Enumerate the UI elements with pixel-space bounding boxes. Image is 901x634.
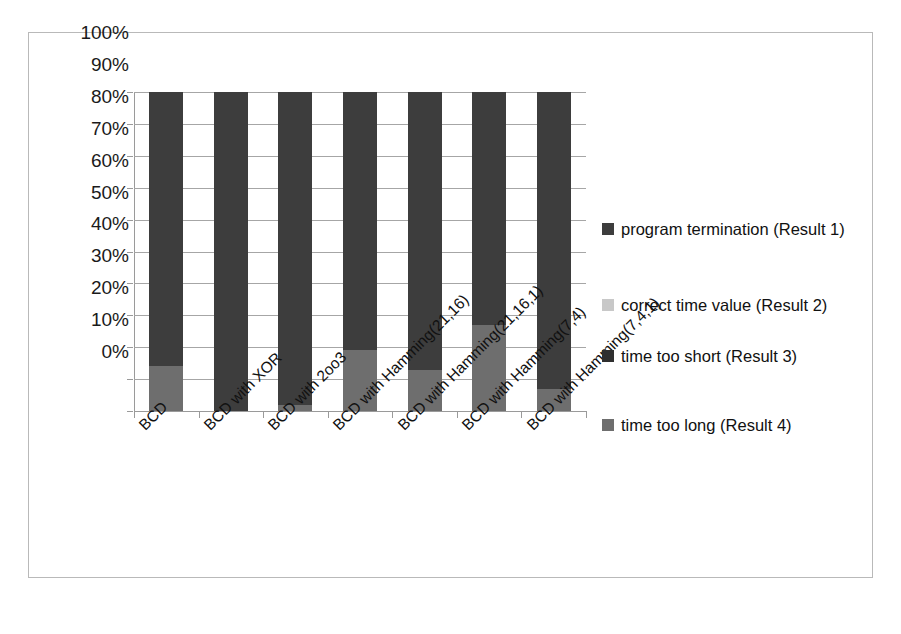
bar-column[interactable] bbox=[278, 92, 312, 411]
legend-entry[interactable]: time too long (Result 4) bbox=[602, 415, 892, 436]
x-axis-tick bbox=[392, 411, 393, 418]
y-axis-tick bbox=[127, 188, 133, 189]
bar-column[interactable] bbox=[537, 92, 571, 411]
legend-swatch-icon bbox=[602, 223, 614, 235]
bar-segment[interactable] bbox=[278, 92, 312, 405]
bar-segment[interactable] bbox=[343, 92, 377, 350]
bar-column[interactable] bbox=[149, 92, 183, 411]
y-axis-labels: 0%10%20%30%40%50%60%70%80%90%100% bbox=[53, 33, 129, 577]
y-axis-tick bbox=[127, 252, 133, 253]
y-axis-tick-label: 90% bbox=[91, 55, 129, 74]
legend-label: time too long (Result 4) bbox=[621, 415, 792, 436]
x-axis-tick bbox=[586, 411, 587, 418]
y-axis-tick-label: 40% bbox=[91, 214, 129, 233]
x-axis-tick bbox=[521, 411, 522, 418]
y-axis-tick bbox=[127, 347, 133, 348]
y-axis-tick-label: 10% bbox=[91, 310, 129, 329]
y-axis-tick bbox=[127, 379, 133, 380]
y-axis-tick bbox=[127, 411, 133, 412]
bar-segment[interactable] bbox=[149, 92, 183, 366]
bar-column[interactable] bbox=[408, 92, 442, 411]
y-axis-tick-label: 30% bbox=[91, 246, 129, 265]
bar-segment[interactable] bbox=[472, 92, 506, 325]
legend-label: time too short (Result 3) bbox=[621, 346, 797, 367]
y-axis-tick bbox=[127, 124, 133, 125]
legend-entry[interactable]: correct time value (Result 2) bbox=[602, 295, 892, 316]
bar-column[interactable] bbox=[214, 92, 248, 411]
x-axis-tick bbox=[199, 411, 200, 418]
y-axis-tick-label: 0% bbox=[102, 342, 129, 361]
chart-frame: 0%10%20%30%40%50%60%70%80%90%100% BCDBCD… bbox=[28, 32, 873, 578]
y-axis-tick bbox=[127, 156, 133, 157]
y-axis-tick bbox=[127, 220, 133, 221]
bar-column[interactable] bbox=[343, 92, 377, 411]
y-axis-tick bbox=[127, 92, 133, 93]
x-axis-tick bbox=[328, 411, 329, 418]
legend-swatch-icon bbox=[602, 350, 614, 362]
bar-segment[interactable] bbox=[214, 92, 248, 411]
x-axis-tick bbox=[263, 411, 264, 418]
bar-column[interactable] bbox=[472, 92, 506, 411]
x-axis-tick bbox=[457, 411, 458, 418]
legend-entry[interactable]: program termination (Result 1) bbox=[602, 219, 892, 240]
y-axis-tick bbox=[127, 283, 133, 284]
y-axis-tick-label: 20% bbox=[91, 278, 129, 297]
legend-entry[interactable]: time too short (Result 3) bbox=[602, 346, 892, 367]
legend-swatch-icon bbox=[602, 299, 614, 311]
y-axis-tick-label: 70% bbox=[91, 119, 129, 138]
y-axis-tick-label: 80% bbox=[91, 87, 129, 106]
x-axis-tick bbox=[134, 411, 135, 418]
legend-label: correct time value (Result 2) bbox=[621, 295, 827, 316]
legend-label: program termination (Result 1) bbox=[621, 219, 845, 240]
y-axis-tick bbox=[127, 315, 133, 316]
y-axis-tick-label: 50% bbox=[91, 183, 129, 202]
y-axis-tick-label: 100% bbox=[80, 23, 129, 42]
legend-swatch-icon bbox=[602, 419, 614, 431]
y-axis-tick-label: 60% bbox=[91, 151, 129, 170]
